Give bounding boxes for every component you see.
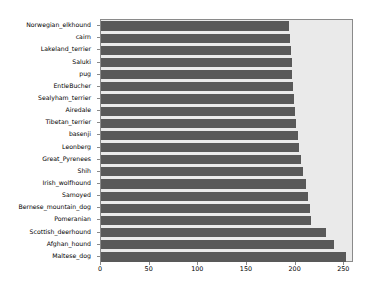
x-axis-tick-label: 150	[240, 266, 252, 272]
y-axis-tick-label: Afghan_hound	[47, 241, 91, 247]
x-axis-tick-label: 0	[98, 266, 102, 272]
bar	[101, 252, 346, 261]
y-axis-tick-mark	[97, 62, 100, 63]
y-axis-tick-mark	[97, 37, 100, 38]
y-axis-tick-label: Saluki	[72, 58, 91, 64]
bar	[101, 192, 308, 201]
bar	[101, 107, 295, 116]
y-axis-tick-mark	[97, 219, 100, 220]
y-axis-tick-label: basenji	[69, 131, 91, 137]
bar	[101, 228, 326, 237]
x-axis-tick-label: 200	[289, 266, 301, 272]
y-axis-tick-label: Maltese_dog	[52, 253, 91, 259]
x-axis-tick-label: 100	[191, 266, 203, 272]
plot-area	[100, 19, 353, 262]
bar	[101, 167, 303, 176]
bar	[101, 155, 301, 164]
bar	[101, 204, 310, 213]
y-axis-tick-label: Lakeland_terrier	[41, 46, 91, 52]
y-axis-tick-mark	[97, 49, 100, 50]
y-axis-tick-mark	[97, 171, 100, 172]
y-axis-tick-label: Scottish_deerhound	[30, 229, 91, 235]
bar	[101, 58, 292, 67]
bar	[101, 94, 294, 103]
y-axis-tick-mark	[97, 110, 100, 111]
y-axis-tick-label: Norwegian_elkhound	[26, 22, 91, 28]
y-axis-tick-mark	[97, 232, 100, 233]
y-axis-tick-mark	[97, 244, 100, 245]
y-axis-tick-label: cairn	[76, 34, 91, 40]
y-axis-tick-mark	[97, 25, 100, 26]
y-axis-tick-mark	[97, 86, 100, 87]
y-axis-tick-mark	[97, 256, 100, 257]
y-axis-tick-label: Pomeranian	[54, 216, 91, 222]
y-axis-tick-mark	[97, 98, 100, 99]
y-axis-tick-label: Bernese_mountain_dog	[18, 204, 91, 210]
bar	[101, 143, 299, 152]
y-axis-tick-mark	[97, 207, 100, 208]
y-axis-tick-mark	[97, 195, 100, 196]
y-axis-tick-mark	[97, 159, 100, 160]
bar	[101, 179, 306, 188]
bars-layer	[101, 20, 352, 261]
bar	[101, 131, 298, 140]
x-axis-tick-label: 250	[337, 266, 349, 272]
y-axis-tick-label: Airedale	[66, 107, 91, 113]
x-axis-tick-label: 50	[145, 266, 153, 272]
y-axis-tick-mark	[97, 134, 100, 135]
y-axis-tick-mark	[97, 147, 100, 148]
y-axis-tick-label: Tibetan_terrier	[45, 119, 91, 125]
y-axis-tick-label: Samoyed	[62, 192, 91, 198]
y-axis-tick-label: EntleBucher	[53, 83, 91, 89]
y-axis-tick-labels: Norwegian_elkhoundcairnLakeland_terrierS…	[0, 19, 96, 262]
bar	[101, 34, 290, 43]
y-axis-tick-mark	[97, 183, 100, 184]
bar-chart-figure: Norwegian_elkhoundcairnLakeland_terrierS…	[0, 0, 367, 295]
y-axis-tick-label: Sealyham_terrier	[38, 95, 91, 101]
bar	[101, 70, 292, 79]
y-axis-tick-label: Shih	[78, 168, 92, 174]
bar	[101, 240, 334, 249]
bar	[101, 119, 296, 128]
y-axis-tick-mark	[97, 74, 100, 75]
y-axis-tick-mark	[97, 122, 100, 123]
bar	[101, 46, 291, 55]
bar	[101, 21, 289, 30]
bar	[101, 82, 293, 91]
y-axis-tick-label: Great_Pyrenees	[42, 156, 91, 162]
y-axis-tick-label: Leonberg	[62, 143, 91, 149]
bar	[101, 216, 311, 225]
y-axis-tick-label: pug	[79, 71, 91, 77]
y-axis-tick-label: Irish_wolfhound	[42, 180, 91, 186]
